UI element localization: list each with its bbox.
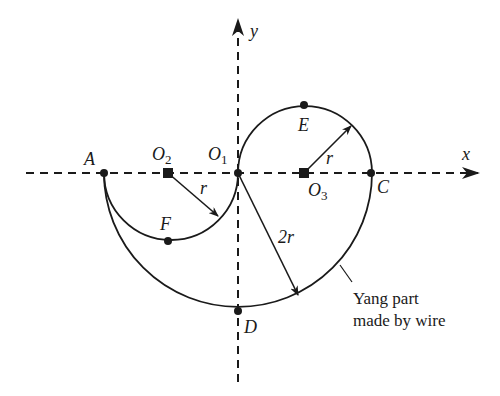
label-c: C	[377, 177, 390, 197]
label-o3: O3	[308, 180, 328, 203]
radius-arrow-o2	[168, 173, 218, 216]
label-o2: O2	[152, 144, 172, 167]
x-axis-label: x	[461, 144, 470, 164]
label-d: D	[243, 317, 257, 337]
label-e: E	[297, 115, 309, 135]
point-d	[234, 307, 242, 315]
point-c	[367, 169, 375, 177]
label-o1: O1	[208, 144, 228, 167]
center-o2	[163, 168, 173, 178]
lower-semicircle-o2	[104, 173, 238, 240]
annotation-line1: Yang part	[353, 289, 419, 308]
radius-label-o1: 2r	[278, 227, 295, 247]
diagram-svg: y x A O2 O1 O3 C E F D r r 2r Yang part …	[0, 0, 500, 396]
point-f	[164, 237, 172, 245]
annotation-leader	[340, 265, 352, 282]
point-a	[100, 169, 108, 177]
center-o3	[299, 168, 309, 178]
label-f: F	[159, 214, 172, 234]
radius-label-o2: r	[200, 178, 208, 198]
point-o1	[234, 169, 242, 177]
radius-label-o3: r	[326, 148, 334, 168]
yang-wire-diagram: y x A O2 O1 O3 C E F D r r 2r Yang part …	[0, 0, 500, 396]
annotation-line2: made by wire	[353, 311, 446, 330]
y-axis-label: y	[248, 21, 258, 41]
point-e	[300, 101, 308, 109]
label-a: A	[83, 149, 96, 169]
